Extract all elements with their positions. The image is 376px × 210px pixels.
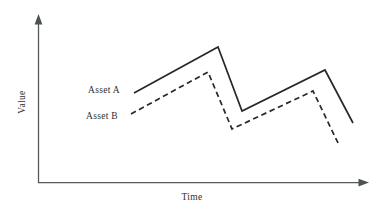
series-line-asset-b [131, 72, 339, 145]
value-axis-label: Value [17, 90, 27, 113]
time-axis-arrowhead [359, 179, 370, 187]
chart-figure: Value Time Asset A Asset B [0, 0, 376, 210]
value-axis-arrowhead [35, 14, 43, 25]
series-label-asset-b: Asset B [86, 111, 118, 121]
series-line-asset-a [134, 47, 353, 123]
time-axis-label: Time [181, 192, 202, 202]
line-chart-canvas: Value Time Asset A Asset B [0, 0, 376, 210]
series-label-asset-a: Asset A [88, 85, 120, 95]
